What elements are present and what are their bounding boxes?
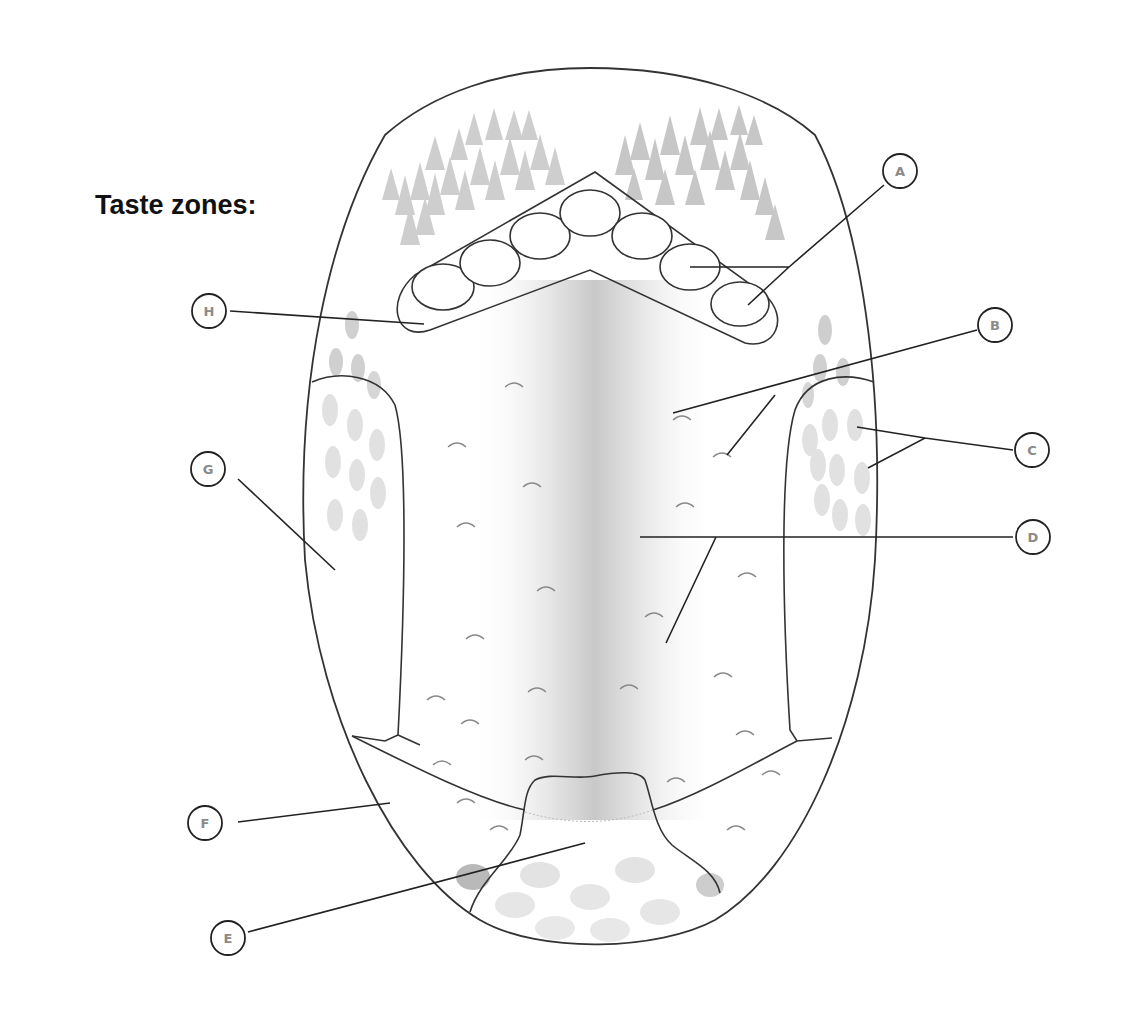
label-b-text: B — [990, 318, 1000, 333]
leader-f — [238, 803, 390, 822]
label-d-text: D — [1028, 530, 1039, 545]
circumvallate-papilla — [711, 282, 769, 326]
median-sulcus-shade — [470, 280, 720, 820]
label-f[interactable]: F — [188, 806, 222, 840]
circumvallate-papilla — [460, 240, 520, 286]
label-e-text: E — [224, 931, 233, 946]
leader-c — [857, 427, 1013, 468]
label-h-text: H — [204, 304, 215, 319]
circumvallate-papilla — [612, 213, 672, 259]
label-h[interactable]: H — [192, 294, 226, 328]
label-g[interactable]: G — [191, 452, 225, 486]
tongue-diagram: A B C D E F G H — [0, 0, 1121, 1011]
label-e[interactable]: E — [211, 921, 245, 955]
label-c[interactable]: C — [1015, 433, 1049, 467]
label-d[interactable]: D — [1016, 520, 1050, 554]
label-g-text: G — [203, 462, 214, 477]
label-c-text: C — [1027, 443, 1037, 458]
label-a-text: A — [895, 164, 905, 179]
circumvallate-papilla — [560, 190, 620, 236]
label-f-text: F — [201, 816, 210, 831]
label-a[interactable]: A — [883, 154, 917, 188]
label-b[interactable]: B — [978, 308, 1012, 342]
